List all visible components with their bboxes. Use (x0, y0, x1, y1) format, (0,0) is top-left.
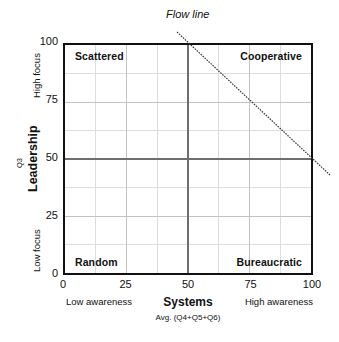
y-axis-high-focus-label: High focus (31, 53, 42, 98)
x-tick-50: 50 (182, 278, 194, 290)
quadrant-label-cooperative: Cooperative (240, 50, 302, 62)
x-axis-ticks: 0 25 50 75 100 (63, 278, 313, 294)
quadrant-label-scattered: Scattered (75, 50, 124, 62)
quadrant-label-bureaucratic: Bureaucratic (237, 256, 302, 268)
y-tick-100: 100 (34, 35, 58, 47)
x-tick-75: 75 (244, 278, 256, 290)
x-axis-subtitle: Avg. (Q4+Q5+Q6) (156, 313, 221, 322)
y-tick-25: 25 (34, 209, 58, 221)
plot-area: Scattered Cooperative Random Bureaucrati… (63, 43, 313, 275)
x-axis-low-awareness-label: Low awareness (66, 296, 132, 307)
quadrant-label-random: Random (75, 256, 118, 268)
y-axis-title: Leadership (26, 125, 40, 192)
y-axis-subtitle: Q3 (15, 158, 24, 168)
leadership-systems-quadrant-chart: Scattered Cooperative Random Bureaucrati… (0, 0, 339, 342)
x-axis-title: Systems (163, 295, 212, 309)
x-tick-100: 100 (303, 278, 321, 290)
x-axis-high-awareness-label: High awareness (245, 296, 313, 307)
x-tick-25: 25 (119, 278, 131, 290)
y-axis-low-focus-label: Low focus (31, 229, 42, 272)
flow-line-label: Flow line (166, 8, 209, 20)
x-tick-0: 0 (60, 278, 66, 290)
gridlines (65, 45, 311, 273)
